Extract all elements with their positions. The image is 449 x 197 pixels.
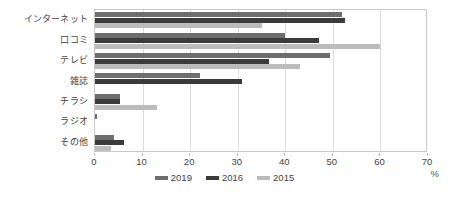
bar-group (95, 133, 426, 152)
legend-item-2019[interactable]: 2019 (155, 172, 192, 183)
x-tick-label-60: 60 (374, 156, 385, 167)
bar-2015 (95, 23, 262, 28)
bar-2015 (95, 44, 380, 49)
x-tick-label-10: 10 (136, 156, 147, 167)
bar-2019 (95, 33, 285, 38)
x-axis-ticks: 010203040506070 (94, 153, 427, 169)
x-tick-label-30: 30 (231, 156, 242, 167)
y-axis-label-3: 雑誌 (70, 76, 88, 86)
bar-2016 (95, 79, 242, 84)
bar-2016 (95, 38, 319, 43)
y-axis-labels: インターネット口コミテレビ雑誌チラシラジオその他 (0, 9, 91, 152)
legend-item-2015[interactable]: 2015 (257, 172, 294, 183)
chart-legend: 201920162015 (0, 172, 449, 183)
legend-label: 2016 (222, 172, 243, 183)
bar-group (95, 71, 426, 91)
bar-2015 (95, 146, 111, 151)
x-tick-label-0: 0 (91, 156, 96, 167)
bar-2019 (95, 135, 114, 140)
legend-item-2016[interactable]: 2016 (206, 172, 243, 183)
x-tick-label-20: 20 (184, 156, 195, 167)
y-axis-label-0: インターネット (24, 14, 88, 24)
legend-swatch-icon (257, 176, 270, 180)
bar-2019 (95, 53, 330, 58)
bar-group (95, 30, 426, 50)
y-axis-label-4: チラシ (60, 96, 88, 106)
x-tick-label-50: 50 (327, 156, 338, 167)
bar-group (95, 10, 426, 30)
bar-2016 (95, 99, 120, 104)
y-axis-label-6: その他 (60, 137, 88, 147)
bar-2016 (95, 140, 124, 145)
bar-2016 (95, 18, 345, 23)
legend-swatch-icon (155, 176, 168, 180)
legend-label: 2015 (273, 172, 294, 183)
bar-2019 (95, 73, 200, 78)
y-axis-label-1: 口コミ (60, 35, 88, 45)
bar-group (95, 51, 426, 71)
y-axis-label-5: ラジオ (60, 116, 88, 126)
x-tick-label-70: 70 (422, 156, 433, 167)
plot-area (94, 9, 427, 152)
bar-2019 (95, 12, 342, 17)
bar-group (95, 112, 426, 132)
y-axis-label-2: テレビ (60, 55, 88, 65)
bar-2019 (95, 94, 120, 99)
bar-2015 (95, 64, 300, 69)
bar-chart: インターネット口コミテレビ雑誌チラシラジオその他 010203040506070… (0, 0, 449, 197)
bar-2019 (95, 114, 97, 119)
bar-group (95, 92, 426, 112)
bar-2016 (95, 59, 269, 64)
legend-swatch-icon (206, 176, 219, 180)
bar-2015 (95, 105, 157, 110)
x-tick-label-40: 40 (279, 156, 290, 167)
legend-label: 2019 (171, 172, 192, 183)
